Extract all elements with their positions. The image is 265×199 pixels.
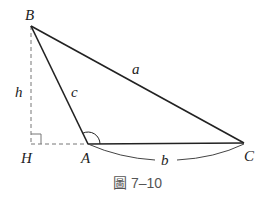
vertex-label-b: B [25, 7, 34, 23]
side-b [88, 143, 244, 144]
right-angle-marker [31, 134, 41, 144]
vertex-label-c: C [244, 148, 255, 164]
side-label-c: c [71, 84, 78, 100]
side-label-h: h [15, 84, 23, 100]
vertex-label-a: A [80, 150, 91, 166]
vertex-label-h: H [20, 150, 33, 166]
brace-b-right [177, 144, 244, 160]
side-c [31, 26, 88, 144]
figure-caption: 圖 7–10 [113, 175, 162, 191]
side-label-a: a [132, 61, 140, 77]
side-label-b: b [161, 152, 169, 168]
triangle-diagram: B H A C h c a b 圖 7–10 [0, 0, 265, 199]
side-a [31, 26, 244, 143]
brace-b-left [88, 144, 155, 160]
